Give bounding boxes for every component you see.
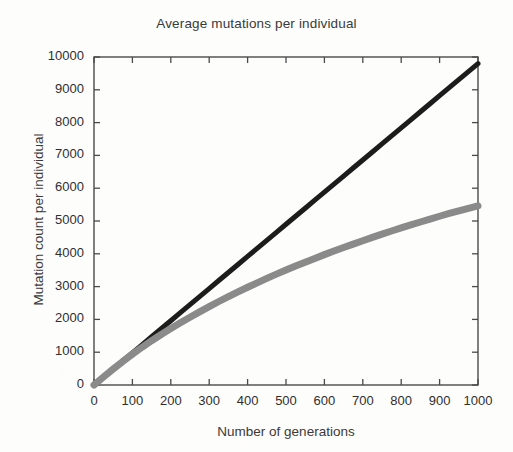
chart-figure: Average mutations per individual Mutatio… <box>0 0 513 452</box>
x-tick-label: 1000 <box>448 393 508 408</box>
x-tick-label-group: 01002003004005006007008009001000 <box>0 0 513 452</box>
